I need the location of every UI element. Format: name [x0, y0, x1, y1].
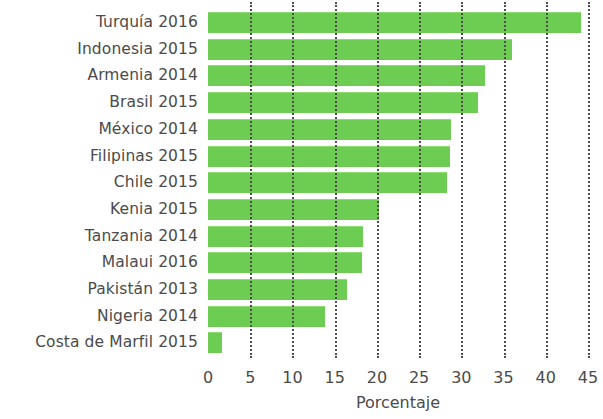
category-label: Filipinas 2015: [0, 146, 198, 167]
category-label: Malaui 2016: [0, 252, 198, 273]
x-tick-label: 20: [367, 368, 387, 388]
x-tick-label: 0: [203, 368, 213, 388]
x-tick-label: 35: [493, 368, 513, 388]
x-axis-title: Porcentaje: [208, 393, 588, 413]
category-label: Indonesia 2015: [0, 39, 198, 60]
category-label: Nigeria 2014: [0, 306, 198, 327]
x-tick-label: 30: [451, 368, 471, 388]
category-label: Pakistán 2013: [0, 279, 198, 300]
plot-area: Turquía 2016Indonesia 2015Armenia 2014Br…: [0, 0, 603, 360]
x-tick-label: 15: [324, 368, 344, 388]
category-label: Costa de Marfil 2015: [0, 332, 198, 353]
x-tick-label: 5: [245, 368, 255, 388]
category-labels: Turquía 2016Indonesia 2015Armenia 2014Br…: [0, 0, 603, 360]
category-label: Chile 2015: [0, 172, 198, 193]
category-label: Tanzania 2014: [0, 226, 198, 247]
category-label: Armenia 2014: [0, 65, 198, 86]
category-label: Kenia 2015: [0, 199, 198, 220]
category-label: México 2014: [0, 119, 198, 140]
category-label: Brasil 2015: [0, 92, 198, 113]
category-label: Turquía 2016: [0, 12, 198, 33]
x-tick-label: 25: [409, 368, 429, 388]
bar-chart: Turquía 2016Indonesia 2015Armenia 2014Br…: [0, 0, 603, 419]
x-tick-label: 45: [578, 368, 598, 388]
x-tick-label: 10: [282, 368, 302, 388]
x-tick-label: 40: [536, 368, 556, 388]
x-axis: 051015202530354045 Porcentaje: [0, 360, 603, 419]
